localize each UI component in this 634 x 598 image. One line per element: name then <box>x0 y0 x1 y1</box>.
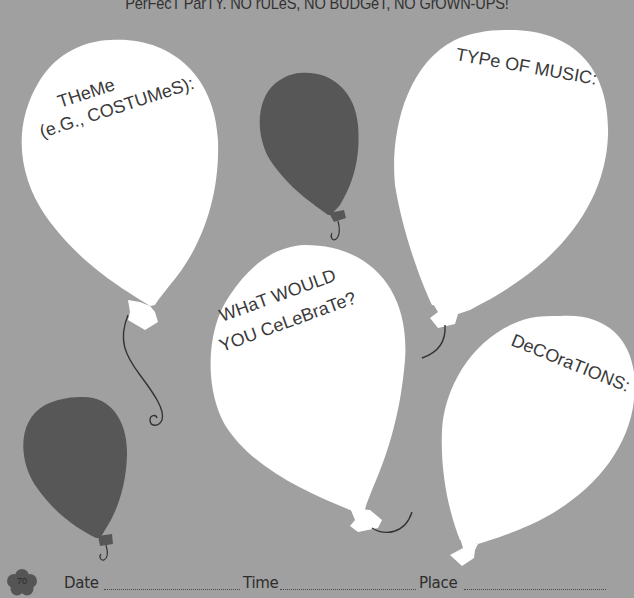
page-number: 70 <box>6 576 38 586</box>
date-field[interactable] <box>104 589 240 590</box>
worksheet-page: PerFecT ParTY. NO rULeS, NO BUDGeT, NO G… <box>0 0 634 598</box>
balloon-decorations: DeCOraTIONS: <box>442 316 634 566</box>
page-number-badge: 70 <box>6 568 38 596</box>
footer: 70 Date Time Place <box>0 566 634 598</box>
dark-balloon-bottom <box>23 397 127 560</box>
date-label: Date <box>64 574 99 592</box>
place-label: Place <box>419 574 457 592</box>
balloon-theme: THeMe (e.G., COSTUMeS): <box>22 40 218 426</box>
time-label: Time <box>243 574 279 592</box>
balloons-illustration: THeMe (e.G., COSTUMeS): TYPe OF MUSIC: W… <box>0 0 634 598</box>
balloon-celebrate: WHaT WOULD YOU CeLeBraTe? <box>211 245 412 532</box>
dark-balloon-top <box>260 73 359 240</box>
time-field[interactable] <box>280 589 416 590</box>
place-field[interactable] <box>464 589 606 590</box>
balloon-music: TYPe OF MUSIC: <box>394 30 608 358</box>
